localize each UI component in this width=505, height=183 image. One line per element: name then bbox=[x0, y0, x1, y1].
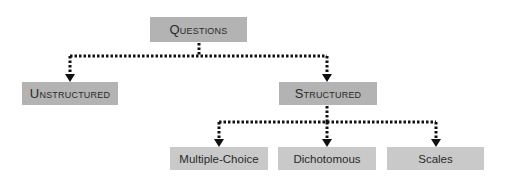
node-questions: Questions bbox=[150, 17, 247, 42]
node-structured-label: Structured bbox=[295, 86, 362, 101]
node-multiple-choice-label: Multiple-Choice bbox=[179, 153, 258, 165]
diagram-canvas: Questions Unstructured Structured Multip… bbox=[0, 0, 505, 183]
node-structured: Structured bbox=[279, 82, 377, 105]
arrowhead-unstructured bbox=[65, 74, 75, 82]
node-dichotomous: Dichotomous bbox=[278, 147, 376, 170]
node-multiple-choice: Multiple-Choice bbox=[170, 147, 268, 170]
node-questions-label: Questions bbox=[170, 22, 228, 37]
arrowhead-dichotomous bbox=[322, 139, 332, 147]
node-scales-label: Scales bbox=[418, 153, 453, 165]
arrowhead-multiple-choice bbox=[214, 139, 224, 147]
node-unstructured: Unstructured bbox=[22, 82, 118, 105]
node-scales: Scales bbox=[387, 147, 484, 170]
node-unstructured-label: Unstructured bbox=[30, 86, 110, 101]
arrowhead-scales bbox=[431, 139, 441, 147]
arrowhead-structured bbox=[322, 74, 332, 82]
node-dichotomous-label: Dichotomous bbox=[293, 153, 360, 165]
